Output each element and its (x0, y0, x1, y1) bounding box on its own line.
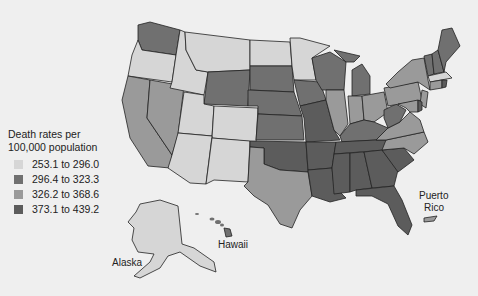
state-in (348, 96, 364, 124)
legend-label: 296.4 to 323.3 (32, 173, 99, 186)
legend-title-line2: 100,000 population (8, 141, 99, 154)
state-mt (185, 32, 250, 72)
state-ct (430, 80, 442, 90)
state-co (212, 106, 258, 142)
legend-label: 326.2 to 368.6 (32, 188, 99, 201)
state-ar (306, 142, 336, 170)
territory-pr (424, 216, 437, 222)
legend-title-line1: Death rates per (8, 128, 99, 141)
legend-swatch-dark (14, 205, 23, 214)
label-alaska: Alaska (112, 257, 142, 268)
legend-swatch-light (14, 160, 23, 169)
legend-item: 326.2 to 368.6 (8, 187, 99, 202)
label-puerto-rico-line2: Rico (424, 202, 444, 213)
state-hi (195, 213, 232, 237)
legend-title: Death rates per 100,000 population (8, 128, 99, 154)
state-sd (250, 66, 294, 92)
legend-item: 253.1 to 296.0 (8, 157, 99, 172)
state-wy (204, 70, 250, 106)
legend-swatch-medium (14, 190, 23, 199)
state-fl (356, 186, 412, 235)
legend-swatch-medium-dark (14, 175, 23, 184)
legend-label: 373.1 to 439.2 (32, 203, 99, 216)
state-nm (206, 138, 250, 184)
legend-item: 373.1 to 439.2 (8, 202, 99, 217)
legend: Death rates per 100,000 population 253.1… (8, 128, 99, 217)
label-puerto-rico-line1: Puerto (419, 190, 448, 201)
state-ri (442, 80, 447, 88)
state-de (418, 100, 422, 112)
legend-label: 253.1 to 296.0 (32, 158, 99, 171)
state-ks (256, 114, 304, 140)
label-hawaii: Hawaii (218, 239, 248, 250)
legend-item: 296.4 to 323.3 (8, 172, 99, 187)
state-ms (332, 153, 350, 194)
state-nd (250, 40, 292, 66)
